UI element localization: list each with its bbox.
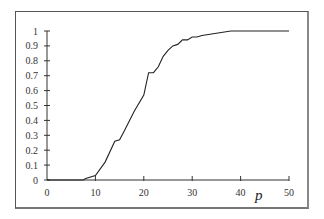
tick-labels: 00.10.20.30.40.50.60.70.80.9101020304050 bbox=[26, 26, 295, 199]
y-tick-label: 1 bbox=[33, 26, 38, 37]
y-tick-label: 0 bbox=[33, 175, 38, 186]
y-tick-label: 0.9 bbox=[26, 40, 39, 51]
axes bbox=[44, 31, 289, 181]
x-tick-label: 0 bbox=[45, 187, 50, 198]
y-tick-label: 0.2 bbox=[26, 145, 39, 156]
y-tick-label: 0.8 bbox=[26, 55, 39, 66]
x-tick-label: 40 bbox=[236, 187, 246, 198]
x-tick-label: 50 bbox=[284, 187, 294, 198]
data-line bbox=[47, 31, 289, 180]
y-tick-label: 0.3 bbox=[26, 130, 39, 141]
y-tick-label: 0.5 bbox=[26, 100, 39, 111]
x-tick-label: 10 bbox=[90, 187, 100, 198]
y-tick-label: 0.4 bbox=[26, 115, 39, 126]
y-tick-label: 0.6 bbox=[26, 85, 39, 96]
x-tick-label: 20 bbox=[139, 187, 149, 198]
x-tick-label: 30 bbox=[187, 187, 197, 198]
y-tick-label: 0.1 bbox=[26, 160, 39, 171]
x-axis-label: p bbox=[254, 187, 263, 203]
y-tick-label: 0.7 bbox=[26, 70, 39, 81]
line-chart: 00.10.20.30.40.50.60.70.80.9101020304050… bbox=[0, 0, 324, 219]
